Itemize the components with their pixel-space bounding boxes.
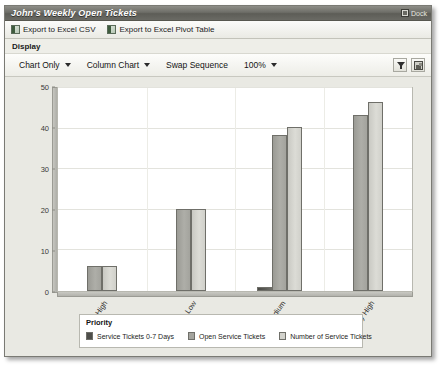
bar[interactable] <box>272 135 287 291</box>
chart-window: John's Weekly Open Tickets Dock Export t… <box>4 5 432 357</box>
chart-canvas: 01020304050 HighLowMediumVery High Prior… <box>11 81 423 350</box>
legend-swatch <box>86 332 93 340</box>
legend-label: Open Service Tickets <box>199 333 265 340</box>
bar[interactable] <box>176 209 191 291</box>
legend-items: Service Tickets 0-7 DaysOpen Service Tic… <box>86 332 356 340</box>
display-label: Display <box>12 42 40 51</box>
bar[interactable] <box>191 209 206 291</box>
chart-only-label: Chart Only <box>19 60 60 70</box>
y-tick-label: 10 <box>11 247 49 256</box>
chevron-down-icon <box>271 63 277 67</box>
y-tick-mark <box>52 87 55 88</box>
legend-item[interactable]: Number of Service Tickets <box>279 332 372 340</box>
y-tick-mark <box>52 169 55 170</box>
chevron-down-icon <box>65 63 71 67</box>
swap-sequence-button[interactable]: Swap Sequence <box>166 60 228 70</box>
chart-properties-button[interactable] <box>411 58 425 72</box>
legend-item[interactable]: Service Tickets 0-7 Days <box>86 332 174 340</box>
zoom-level-dropdown[interactable]: 100% <box>244 60 277 70</box>
x-axis-label: Low <box>183 299 198 315</box>
y-tick-mark <box>52 251 55 252</box>
bar[interactable] <box>287 127 302 291</box>
bar[interactable] <box>102 266 117 291</box>
bar[interactable] <box>87 266 102 291</box>
chart-legend: Priority Service Tickets 0-7 DaysOpen Se… <box>79 314 363 348</box>
bar-group <box>235 88 324 291</box>
bar[interactable] <box>257 287 272 291</box>
bars-layer <box>58 88 412 291</box>
y-tick-mark <box>52 210 55 211</box>
filter-button[interactable] <box>393 58 407 72</box>
chart-panel: 01020304050 HighLowMediumVery High Prior… <box>5 77 431 356</box>
excel-icon <box>107 25 116 34</box>
chart-properties-icon <box>414 61 423 70</box>
chart-only-dropdown[interactable]: Chart Only <box>19 60 71 70</box>
export-pivot-label: Export to Excel Pivot Table <box>119 25 214 34</box>
plot-area <box>57 87 413 292</box>
dock-button-label: Dock <box>411 10 427 17</box>
legend-label: Number of Service Tickets <box>290 333 372 340</box>
chart-type-dropdown[interactable]: Column Chart <box>87 60 150 70</box>
title-bar: John's Weekly Open Tickets Dock <box>5 6 431 21</box>
y-tick-label: 30 <box>11 165 49 174</box>
chart-controls-bar: Chart Only Column Chart Swap Sequence 10… <box>5 53 431 77</box>
excel-icon <box>11 25 20 34</box>
legend-label: Service Tickets 0-7 Days <box>97 333 174 340</box>
chart-type-label: Column Chart <box>87 60 139 70</box>
y-tick-label: 40 <box>11 124 49 133</box>
legend-swatch <box>188 332 195 340</box>
dock-icon <box>401 9 409 17</box>
display-section-header: Display <box>5 39 431 53</box>
dock-button[interactable]: Dock <box>399 9 429 17</box>
filter-icon <box>397 62 405 67</box>
legend-title: Priority <box>86 318 356 327</box>
bar-group <box>58 88 147 291</box>
window-title: John's Weekly Open Tickets <box>11 8 137 18</box>
export-csv-button[interactable]: Export to Excel CSV <box>11 25 95 34</box>
legend-item[interactable]: Open Service Tickets <box>188 332 265 340</box>
bar-group <box>147 88 236 291</box>
export-pivot-button[interactable]: Export to Excel Pivot Table <box>107 25 214 34</box>
bar-group <box>324 88 413 291</box>
y-tick-label: 0 <box>11 288 49 297</box>
y-tick-mark <box>52 292 55 293</box>
export-toolbar: Export to Excel CSV Export to Excel Pivo… <box>5 21 431 39</box>
swap-sequence-label: Swap Sequence <box>166 60 228 70</box>
chevron-down-icon <box>144 63 150 67</box>
export-csv-label: Export to Excel CSV <box>23 25 95 34</box>
bar[interactable] <box>353 115 368 291</box>
y-tick-label: 50 <box>11 83 49 92</box>
bar[interactable] <box>368 102 383 291</box>
zoom-level-label: 100% <box>244 60 266 70</box>
y-tick-mark <box>52 128 55 129</box>
y-tick-label: 20 <box>11 206 49 215</box>
legend-swatch <box>279 332 286 340</box>
